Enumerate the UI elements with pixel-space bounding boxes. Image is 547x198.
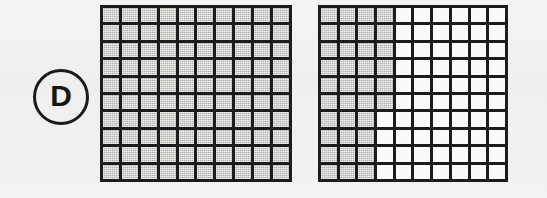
grid-cell — [321, 112, 337, 126]
grid-cell — [216, 8, 232, 22]
grid-cell — [122, 112, 138, 126]
grid-cell — [321, 165, 337, 179]
grid-cell — [273, 147, 289, 161]
grid-cell — [321, 147, 337, 161]
grid-cell — [141, 78, 157, 92]
grid-cell — [433, 43, 449, 57]
grid-cell — [433, 60, 449, 74]
grid-cell — [197, 130, 213, 144]
grid-cell — [179, 43, 195, 57]
grid-cell — [358, 130, 374, 144]
grid-cell — [179, 130, 195, 144]
grid-cell — [396, 130, 412, 144]
grid-cell — [122, 147, 138, 161]
grid-cell — [489, 95, 505, 109]
grid-cell — [471, 43, 487, 57]
grid-cell — [377, 8, 393, 22]
grid-cell — [122, 8, 138, 22]
grid-cell — [141, 165, 157, 179]
grid-cell — [377, 165, 393, 179]
grid-cell — [377, 78, 393, 92]
grid-cell — [471, 165, 487, 179]
grid-cell — [321, 130, 337, 144]
grid-cell — [340, 25, 356, 39]
grid-cell — [160, 130, 176, 144]
grid-cell — [340, 112, 356, 126]
grid-cell — [141, 43, 157, 57]
grid-cell — [254, 147, 270, 161]
grid-cell — [197, 147, 213, 161]
grid-cell — [273, 165, 289, 179]
grid-cell — [358, 60, 374, 74]
grid-cell — [235, 95, 251, 109]
grid-cell — [340, 8, 356, 22]
grid-cell — [160, 25, 176, 39]
grid-cell — [273, 95, 289, 109]
grid-cell — [197, 165, 213, 179]
grid-cell — [377, 112, 393, 126]
grid-cell — [377, 25, 393, 39]
grid-cell — [489, 60, 505, 74]
grid-cell — [433, 25, 449, 39]
grid-cell — [103, 130, 119, 144]
grid-cell — [471, 130, 487, 144]
grid-cell — [179, 165, 195, 179]
grid-cell — [141, 8, 157, 22]
grid-cell — [273, 43, 289, 57]
grid-cell — [103, 112, 119, 126]
grid-cell — [254, 8, 270, 22]
grid-cell — [340, 165, 356, 179]
grid-cell — [396, 165, 412, 179]
grid-cell — [452, 43, 468, 57]
grid-cell — [179, 112, 195, 126]
grid-cell — [471, 112, 487, 126]
grid-cell — [122, 60, 138, 74]
grid-cell — [273, 130, 289, 144]
grid-cell — [235, 112, 251, 126]
grid-cell — [414, 112, 430, 126]
grid-cell — [273, 25, 289, 39]
grid-cell — [489, 25, 505, 39]
grid-cell — [216, 165, 232, 179]
grid-cell — [235, 43, 251, 57]
grid-cell — [160, 95, 176, 109]
grid-cell — [489, 165, 505, 179]
grid-cell — [396, 25, 412, 39]
grid-cell — [321, 43, 337, 57]
grid-cell — [377, 95, 393, 109]
grid-cell — [216, 147, 232, 161]
grid-cell — [414, 78, 430, 92]
grid-cell — [235, 130, 251, 144]
grid-cell — [396, 43, 412, 57]
grid-cell — [452, 25, 468, 39]
grid-cell — [414, 130, 430, 144]
grid-cell — [358, 25, 374, 39]
grid-cell — [254, 78, 270, 92]
grid-cell — [358, 8, 374, 22]
grid-cell — [377, 147, 393, 161]
grid-cell — [414, 147, 430, 161]
grid-cell — [179, 25, 195, 39]
grid-cell — [358, 43, 374, 57]
grid-cell — [103, 78, 119, 92]
grid-cell — [216, 130, 232, 144]
grid-cell — [358, 112, 374, 126]
grid-cell — [433, 78, 449, 92]
grid-cell — [471, 8, 487, 22]
grid-cell — [396, 112, 412, 126]
grid-cell — [340, 78, 356, 92]
grid-cell — [377, 130, 393, 144]
grid-cell — [254, 60, 270, 74]
grid-cell — [396, 95, 412, 109]
grid-cell — [197, 60, 213, 74]
grid-cell — [489, 130, 505, 144]
grid-cell — [340, 130, 356, 144]
grid-cell — [141, 147, 157, 161]
grid-cell — [216, 60, 232, 74]
grid-cell — [254, 130, 270, 144]
grid-cell — [396, 147, 412, 161]
grid-cell — [489, 147, 505, 161]
grid-cell — [197, 112, 213, 126]
grid-cell — [216, 43, 232, 57]
grid-cell — [358, 78, 374, 92]
